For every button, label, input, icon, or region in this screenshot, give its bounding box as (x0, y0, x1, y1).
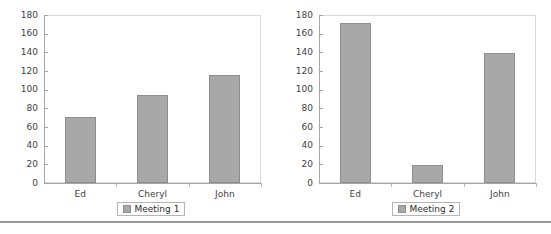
y-axis-tick-mark (319, 15, 323, 16)
x-axis-tick-mark (464, 183, 465, 187)
y-axis-tick-label: 160 (296, 28, 313, 39)
chart-2-y-axis-labels: 180160140120100806040200 (281, 0, 313, 200)
y-axis-tick-label: 0 (32, 178, 38, 189)
chart-1-legend-label: Meeting 1 (135, 204, 180, 214)
y-axis-tick-label: 140 (21, 47, 38, 58)
chart-1-y-axis-line (44, 15, 45, 184)
bar-john (209, 75, 240, 183)
y-axis-tick-mark (319, 90, 323, 91)
y-axis-tick-mark (44, 164, 48, 165)
y-axis-tick-label: 80 (302, 103, 313, 114)
chart-page: 180160140120100806040200 EdCherylJohn Me… (0, 0, 551, 234)
y-axis-tick-label: 180 (296, 10, 313, 21)
x-axis-tick-mark (261, 183, 262, 187)
y-axis-tick-mark (44, 90, 48, 91)
chart-1-x-axis-line (44, 183, 262, 184)
bar-chart-meeting-2: 180160140120100806040200 EdCherylJohn Me… (275, 0, 550, 225)
bar-john (484, 53, 515, 183)
y-axis-tick-mark (44, 15, 48, 16)
chart-2-legend: Meeting 2 (392, 202, 461, 216)
y-axis-tick-mark (319, 146, 323, 147)
x-axis-tick-mark (116, 183, 117, 187)
x-axis-category-label: Cheryl (391, 188, 463, 201)
y-axis-tick-mark (319, 183, 323, 184)
y-axis-tick-label: 80 (27, 103, 38, 114)
bar-ed (340, 23, 371, 183)
bar-cheryl (137, 95, 168, 183)
x-axis-tick-mark (536, 183, 537, 187)
x-axis-category-label: Ed (319, 188, 391, 201)
y-axis-tick-label: 40 (27, 140, 38, 151)
y-axis-tick-label: 100 (296, 84, 313, 95)
y-axis-tick-label: 60 (302, 122, 313, 133)
y-axis-tick-label: 140 (296, 47, 313, 58)
legend-swatch-icon (123, 205, 131, 213)
bar-ed (65, 117, 96, 183)
y-axis-tick-mark (319, 127, 323, 128)
y-axis-tick-mark (319, 34, 323, 35)
chart-2-legend-label: Meeting 2 (410, 204, 455, 214)
y-axis-tick-mark (319, 52, 323, 53)
y-axis-tick-mark (319, 71, 323, 72)
x-axis-category-label: John (464, 188, 536, 201)
chart-2-inner: 180160140120100806040200 EdCherylJohn Me… (275, 0, 550, 225)
y-axis-tick-label: 120 (296, 66, 313, 77)
y-axis-tick-mark (319, 108, 323, 109)
y-axis-tick-label: 160 (21, 28, 38, 39)
y-axis-tick-label: 180 (21, 10, 38, 21)
y-axis-tick-mark (44, 52, 48, 53)
x-axis-category-label: John (189, 188, 261, 201)
x-axis-category-label: Ed (44, 188, 116, 201)
legend-swatch-icon (398, 205, 406, 213)
bottom-divider (0, 221, 551, 223)
y-axis-tick-label: 20 (302, 159, 313, 170)
y-axis-tick-label: 60 (27, 122, 38, 133)
y-axis-tick-mark (44, 183, 48, 184)
x-axis-tick-mark (189, 183, 190, 187)
y-axis-tick-mark (44, 71, 48, 72)
chart-1-inner: 180160140120100806040200 EdCherylJohn Me… (0, 0, 275, 225)
chart-2-y-axis-line (319, 15, 320, 184)
y-axis-tick-mark (319, 164, 323, 165)
chart-2-x-axis-line (319, 183, 537, 184)
y-axis-tick-mark (44, 34, 48, 35)
y-axis-tick-mark (44, 146, 48, 147)
x-axis-category-label: Cheryl (116, 188, 188, 201)
chart-1-y-axis-labels: 180160140120100806040200 (6, 0, 38, 200)
y-axis-tick-label: 100 (21, 84, 38, 95)
y-axis-tick-mark (44, 127, 48, 128)
y-axis-tick-label: 0 (307, 178, 313, 189)
y-axis-tick-label: 20 (27, 159, 38, 170)
y-axis-tick-label: 120 (21, 66, 38, 77)
y-axis-tick-mark (44, 108, 48, 109)
bar-cheryl (412, 165, 443, 183)
x-axis-tick-mark (391, 183, 392, 187)
bar-chart-meeting-1: 180160140120100806040200 EdCherylJohn Me… (0, 0, 275, 225)
y-axis-tick-label: 40 (302, 140, 313, 151)
chart-1-legend: Meeting 1 (117, 202, 186, 216)
